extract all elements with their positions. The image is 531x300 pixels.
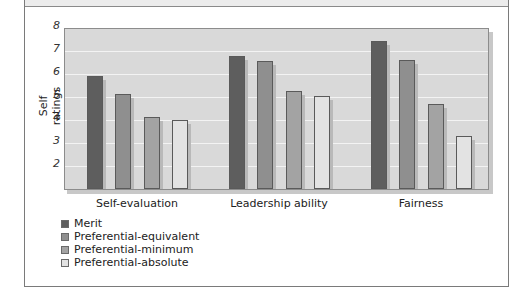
legend-label: Preferential-minimum bbox=[74, 243, 194, 256]
bar bbox=[257, 61, 273, 189]
y-axis-label: Self ratings bbox=[37, 76, 63, 136]
legend-swatch-icon bbox=[61, 220, 69, 228]
legend-swatch-icon bbox=[61, 233, 69, 241]
y-tick-label: 2 bbox=[46, 158, 60, 170]
bar bbox=[428, 104, 444, 189]
y-tick-label: 4 bbox=[46, 112, 60, 124]
bar bbox=[286, 91, 302, 189]
legend-item: Preferential-minimum bbox=[61, 243, 199, 256]
legend-label: Preferential-equivalent bbox=[74, 230, 199, 243]
bar bbox=[229, 56, 245, 189]
y-tick-label: 8 bbox=[46, 20, 60, 32]
bar bbox=[399, 60, 415, 189]
legend-item: Preferential-equivalent bbox=[61, 230, 199, 243]
legend: MeritPreferential-equivalentPreferential… bbox=[61, 217, 199, 269]
bar bbox=[371, 41, 387, 189]
bar bbox=[115, 94, 131, 189]
legend-label: Preferential-absolute bbox=[74, 256, 189, 269]
x-tick-label: Self-evaluation bbox=[57, 197, 217, 210]
bar bbox=[144, 117, 160, 189]
legend-label: Merit bbox=[74, 217, 102, 230]
legend-swatch-icon bbox=[61, 259, 69, 267]
bar bbox=[87, 76, 103, 189]
header-band bbox=[25, 0, 508, 7]
y-tick-label: 6 bbox=[46, 66, 60, 78]
legend-swatch-icon bbox=[61, 246, 69, 254]
bar bbox=[172, 120, 188, 189]
y-tick-label: 3 bbox=[46, 135, 60, 147]
x-tick-label: Fairness bbox=[341, 197, 501, 210]
bar bbox=[456, 136, 472, 189]
legend-item: Preferential-absolute bbox=[61, 256, 199, 269]
gridline bbox=[65, 51, 488, 52]
gridline bbox=[65, 74, 488, 75]
y-tick-label: 5 bbox=[46, 89, 60, 101]
y-tick-label: 7 bbox=[46, 43, 60, 55]
x-tick-label: Leadership ability bbox=[199, 197, 359, 210]
legend-item: Merit bbox=[61, 217, 199, 230]
bar bbox=[314, 96, 330, 189]
